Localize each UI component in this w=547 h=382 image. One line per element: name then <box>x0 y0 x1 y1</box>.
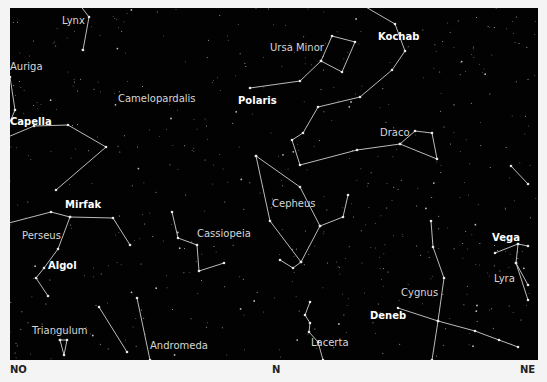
background-star <box>471 54 472 55</box>
background-star <box>189 272 190 273</box>
constellation-star <box>66 339 69 342</box>
background-star <box>170 164 171 165</box>
background-star <box>358 43 359 44</box>
constellation-star <box>177 237 180 240</box>
background-star <box>534 34 535 35</box>
direction-label-north: N <box>272 364 280 375</box>
background-star <box>399 300 400 301</box>
background-star <box>468 194 469 195</box>
background-star <box>125 52 126 53</box>
star-chart-sky: LynxAurigaCamelopardalisUrsa MinorDracoC… <box>10 8 538 360</box>
star-label: Kochab <box>378 31 419 42</box>
background-star <box>10 225 11 226</box>
background-star <box>206 327 207 328</box>
background-star <box>20 329 21 330</box>
background-star <box>212 82 213 83</box>
constellation-star <box>309 322 312 325</box>
constellation-line <box>36 217 70 296</box>
background-star <box>526 305 527 306</box>
background-star <box>530 165 531 166</box>
constellation-star <box>320 60 323 63</box>
background-star <box>133 327 134 328</box>
background-star <box>115 104 117 106</box>
background-star <box>393 235 394 236</box>
background-star <box>489 94 490 95</box>
background-star <box>378 156 379 157</box>
background-star <box>94 89 95 90</box>
background-star <box>375 223 376 224</box>
background-star <box>535 198 536 199</box>
background-star <box>491 308 492 309</box>
background-star <box>243 315 244 316</box>
background-star <box>355 94 356 95</box>
background-star <box>281 180 282 181</box>
background-star <box>206 126 207 127</box>
background-star <box>222 327 223 328</box>
constellation-label: Auriga <box>10 61 43 72</box>
background-star <box>314 146 315 147</box>
constellation-star <box>515 262 518 265</box>
background-star <box>379 257 380 258</box>
constellation-star <box>50 211 53 214</box>
background-star <box>438 228 439 229</box>
background-star <box>339 274 340 275</box>
background-star <box>157 12 158 13</box>
background-star <box>268 9 269 10</box>
background-star <box>441 165 442 166</box>
background-star <box>96 305 97 306</box>
background-star <box>382 353 383 354</box>
background-star <box>143 182 144 183</box>
constellation-star <box>105 146 108 149</box>
background-star <box>463 304 464 305</box>
background-star <box>472 345 474 347</box>
background-star <box>375 333 376 334</box>
background-star <box>514 200 515 201</box>
background-star <box>220 90 221 91</box>
constellation-star <box>126 351 129 354</box>
constellation-star <box>436 158 439 161</box>
background-star <box>365 224 366 225</box>
background-star <box>465 231 466 232</box>
background-star <box>223 169 224 170</box>
background-star <box>373 322 374 323</box>
background-star <box>216 252 217 253</box>
background-star <box>454 248 455 249</box>
background-star <box>185 195 186 196</box>
background-star <box>282 229 283 230</box>
star-label: Algol <box>48 260 77 271</box>
background-star <box>98 82 99 83</box>
background-star <box>28 155 29 156</box>
constellation-star <box>299 80 302 83</box>
constellation-star <box>510 165 513 168</box>
background-star <box>137 147 138 148</box>
background-star <box>224 286 225 287</box>
background-star <box>292 249 293 250</box>
background-star <box>364 292 365 293</box>
background-star <box>288 169 289 170</box>
background-star <box>337 31 338 32</box>
background-star <box>516 81 517 82</box>
background-star <box>152 236 153 237</box>
background-star <box>93 268 94 269</box>
background-star <box>327 262 328 263</box>
background-star <box>294 256 295 257</box>
background-star <box>399 344 400 345</box>
background-star <box>232 123 233 124</box>
background-star <box>398 189 399 190</box>
constellation-star <box>14 109 17 112</box>
background-star <box>235 75 236 76</box>
background-star <box>323 70 324 71</box>
background-star <box>217 77 218 78</box>
background-star <box>17 22 18 23</box>
constellation-line <box>99 307 127 352</box>
background-star <box>445 328 446 329</box>
background-star <box>345 258 346 259</box>
constellation-line <box>305 302 323 360</box>
background-star <box>325 43 326 44</box>
background-star <box>304 264 305 265</box>
background-star <box>529 293 530 294</box>
background-star <box>29 55 30 56</box>
background-star <box>13 22 14 23</box>
background-star <box>442 294 443 295</box>
background-star <box>515 42 516 43</box>
